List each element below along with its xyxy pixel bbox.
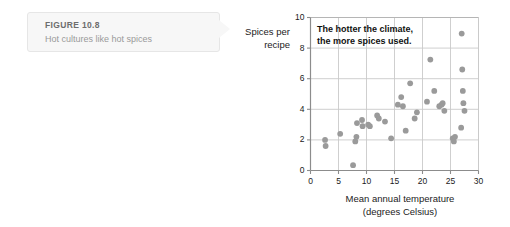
data-point [459, 31, 465, 37]
x-tick-label: 25 [441, 176, 461, 186]
data-point [398, 94, 404, 100]
data-point [354, 120, 360, 126]
data-point [360, 123, 366, 129]
data-point [382, 119, 388, 125]
data-point [400, 103, 406, 109]
data-point [440, 100, 446, 106]
y-tick-label: 2 [285, 134, 305, 144]
data-point [337, 131, 343, 137]
data-point [403, 128, 409, 134]
data-point [412, 116, 418, 122]
data-point [350, 162, 356, 168]
data-point [460, 88, 466, 94]
x-tick-label: 15 [385, 176, 405, 186]
x-tick-label: 20 [413, 176, 433, 186]
data-point [322, 137, 328, 143]
y-tick-label: 4 [285, 104, 305, 114]
data-point [427, 57, 433, 63]
x-tick-label: 10 [357, 176, 377, 186]
data-point [452, 134, 458, 140]
data-point [414, 109, 420, 115]
data-point [376, 116, 382, 122]
y-tick-label: 6 [285, 73, 305, 83]
scatter-chart: Spices per recipe Mean annual temperatur… [0, 0, 510, 227]
data-point [458, 125, 464, 131]
data-point [323, 143, 329, 149]
data-point [354, 134, 360, 140]
y-tick-label: 0 [285, 165, 305, 175]
data-point [367, 123, 373, 129]
data-point [388, 135, 394, 141]
y-tick-label: 10 [285, 12, 305, 22]
plot-area [0, 0, 510, 227]
data-point [459, 67, 465, 73]
x-tick-label: 30 [469, 176, 489, 186]
data-point [462, 108, 468, 114]
x-tick-label: 0 [301, 176, 321, 186]
data-point [359, 117, 365, 123]
x-tick-label: 5 [329, 176, 349, 186]
data-point [395, 102, 401, 108]
chart-annotation: The hotter the climate, the more spices … [317, 24, 413, 47]
data-point [424, 99, 430, 105]
data-point [460, 100, 466, 106]
data-point [407, 80, 413, 86]
data-point [431, 88, 437, 94]
y-tick-label: 8 [285, 43, 305, 53]
data-point [441, 108, 447, 114]
